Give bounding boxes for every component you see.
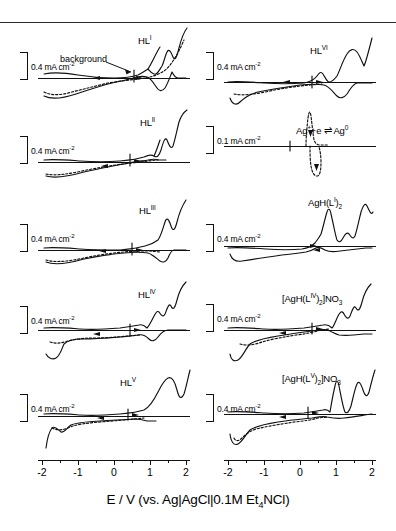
x-tick-label: -2 (37, 466, 46, 478)
scale-bracket-icon (206, 304, 214, 332)
voltammogram-trace-aghl1-2 (224, 198, 376, 284)
panel-aghl4-2-no3: 0.4 mA cm-2 [AgH(LIV)2]NO3 (198, 284, 396, 370)
scale-bracket-icon (20, 306, 28, 334)
panel-column-right: 0.4 mA cm-2 HLVI 0.1 mA cm-2 (198, 26, 396, 456)
voltammogram-trace-hl-i (38, 26, 190, 112)
x-tick-label: -1 (259, 466, 268, 478)
voltammogram-trace-hl-vi (224, 26, 376, 112)
cyclic-voltammetry-figure: 0.4 mA cm-2 HLI background (0, 0, 396, 531)
x-tick-label: 1 (147, 466, 153, 478)
x-tick-label: -2 (223, 466, 232, 478)
voltammogram-trace-ag-couple (224, 112, 376, 198)
voltammogram-trace-aghl5-2-no3 (224, 370, 376, 456)
scale-bracket-icon (206, 126, 214, 154)
plot-area-hl-vi (224, 26, 376, 112)
voltammogram-trace-hl-iii (38, 198, 190, 284)
plot-area-aghl4-2-no3 (224, 284, 376, 370)
panel-aghl5-2-no3: 0.4 mA cm-2 [AgH(LV)2]NO3 (198, 370, 396, 456)
plot-area-hl-ii (38, 112, 190, 198)
x-tick-label: 1 (333, 466, 339, 478)
top-rule (0, 22, 396, 23)
voltammogram-trace-hl-iv (38, 284, 190, 370)
voltammogram-trace-hl-ii (38, 112, 190, 198)
x-tick-label: 0 (297, 466, 303, 478)
scale-bracket-icon (20, 52, 28, 80)
plot-area-aghl5-2-no3 (224, 370, 376, 456)
panel-hl-iii: 0.4 mA cm-2 HLIII (0, 198, 198, 284)
x-tick-label: -1 (73, 466, 82, 478)
panel-hl-vi: 0.4 mA cm-2 HLVI (198, 26, 396, 112)
x-axis-title: E / V (vs. Ag|AgCl|0.1M Et4NCl) (0, 492, 396, 510)
panel-hl-iv: 0.4 mA cm-2 HLIV (0, 284, 198, 370)
panel-ag-couple: 0.1 mA cm-2 Ag++e ⇌ Ag0 (198, 112, 396, 198)
voltammogram-trace-hl-v (38, 370, 190, 456)
x-tick-label: 2 (183, 466, 189, 478)
scale-bracket-icon (206, 394, 214, 422)
scale-bracket-icon (20, 224, 28, 252)
x-tick-label: 2 (369, 466, 375, 478)
panel-hl-v: 0.4 mA cm-2 HLV (0, 370, 198, 456)
scale-bracket-icon (206, 52, 214, 80)
scale-bracket-icon (20, 394, 28, 422)
scale-bracket-icon (206, 224, 214, 252)
plot-area-aghl1-2 (224, 198, 376, 284)
scale-bracket-icon (20, 136, 28, 164)
panel-column-left: 0.4 mA cm-2 HLI background (0, 26, 198, 456)
plot-area-hl-i (38, 26, 190, 112)
plot-area-hl-iii (38, 198, 190, 284)
voltammogram-trace-aghl4-2-no3 (224, 284, 376, 370)
x-tick-label: 0 (111, 466, 117, 478)
panel-aghl1-2: 0.4 mA cm-2 AgH(LI)2 (198, 198, 396, 284)
panel-hl-ii: 0.4 mA cm-2 HLII (0, 112, 198, 198)
plot-area-ag-couple (224, 112, 376, 198)
plot-area-hl-v (38, 370, 190, 456)
plot-area-hl-iv (38, 284, 190, 370)
panel-hl-i: 0.4 mA cm-2 HLI background (0, 26, 198, 112)
